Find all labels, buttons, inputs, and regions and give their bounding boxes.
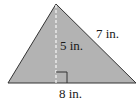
triangle-diagram: 5 in. 7 in. 8 in. bbox=[0, 0, 139, 100]
side-label: 7 in. bbox=[96, 26, 119, 41]
base-label: 8 in. bbox=[59, 86, 82, 100]
height-label: 5 in. bbox=[60, 38, 83, 53]
